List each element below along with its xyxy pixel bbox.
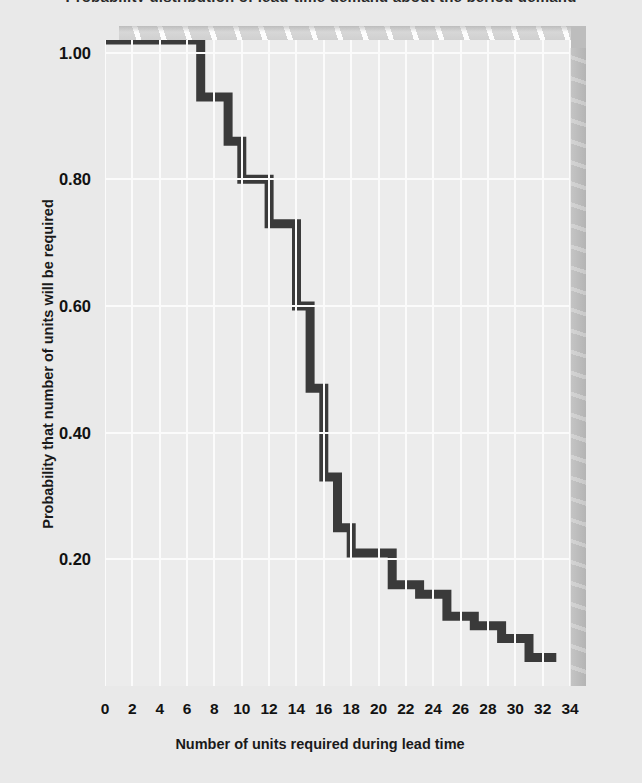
y-axis-tick-label: 0.60: [59, 297, 91, 316]
chart-figure: Probability distribution of lead-time de…: [0, 0, 642, 783]
x-axis-tick-label: 16: [315, 700, 332, 718]
x-axis-tick-label: 14: [288, 700, 305, 718]
x-axis-tick-label: 12: [260, 700, 277, 718]
gridline-vertical: [350, 40, 352, 686]
gridline-vertical: [159, 40, 161, 686]
x-axis-tick-label: 8: [210, 700, 219, 718]
step-curve: [105, 40, 570, 686]
gridline-vertical: [378, 40, 380, 686]
gridline-vertical: [487, 40, 489, 686]
y-axis-tick-label: 0.40: [59, 423, 91, 442]
x-axis-tick-label: 34: [561, 700, 578, 718]
x-axis-tick-label: 20: [370, 700, 387, 718]
gridline-horizontal: [105, 52, 570, 54]
gridline-vertical: [131, 40, 133, 686]
x-axis-tick-label: 22: [397, 700, 414, 718]
x-axis-tick-label: 28: [479, 700, 496, 718]
y-axis-tick-label: 1.00: [59, 43, 91, 62]
x-axis-tick-label: 4: [155, 700, 164, 718]
x-axis-tick-label: 2: [128, 700, 137, 718]
gridline-vertical: [460, 40, 462, 686]
x-axis-tick-labels: 0246810121416182022242628303234: [0, 700, 642, 724]
gridline-vertical: [432, 40, 434, 686]
x-axis-tick-label: 24: [425, 700, 442, 718]
y-axis-tick-label: 0.20: [59, 550, 91, 569]
x-axis-tick-label: 10: [233, 700, 250, 718]
gridline-vertical: [569, 40, 570, 686]
gridline-vertical: [268, 40, 270, 686]
gridline-vertical: [323, 40, 325, 686]
gridline-vertical: [514, 40, 516, 686]
gridline-horizontal: [105, 178, 570, 180]
frame-corner: [571, 26, 586, 48]
frame-top-shade: [119, 26, 586, 32]
gridline-vertical: [405, 40, 407, 686]
frame-right-slab: [571, 40, 586, 686]
x-axis-tick-label: 26: [452, 700, 469, 718]
gridline-vertical: [186, 40, 188, 686]
frame-right-ribs: [571, 40, 586, 686]
gridline-horizontal: [105, 558, 570, 560]
y-axis-tick-label: 0.80: [59, 170, 91, 189]
x-axis-tick-label: 30: [507, 700, 524, 718]
gridline-horizontal: [105, 432, 570, 434]
gridline-vertical: [542, 40, 544, 686]
x-axis-tick-label: 0: [101, 700, 110, 718]
x-axis-tick-label: 32: [534, 700, 551, 718]
x-axis-tick-label: 18: [343, 700, 360, 718]
gridline-vertical: [105, 40, 106, 686]
plot-area: [105, 40, 570, 686]
gridline-vertical: [295, 40, 297, 686]
gridline-horizontal: [105, 305, 570, 307]
y-axis-title: Probability that number of units will be…: [40, 84, 56, 644]
x-axis-title: Number of units required during lead tim…: [60, 736, 580, 752]
x-axis-tick-label: 6: [183, 700, 192, 718]
gridline-vertical: [213, 40, 215, 686]
gridline-vertical: [241, 40, 243, 686]
